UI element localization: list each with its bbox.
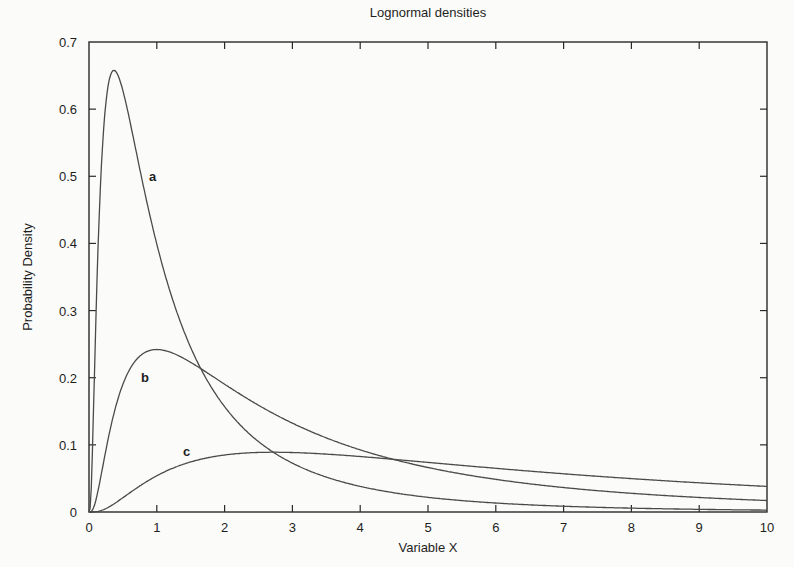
x-tick-label: 5 bbox=[424, 520, 431, 535]
curve-a bbox=[89, 70, 767, 512]
y-tick-label: 0.7 bbox=[59, 35, 77, 50]
y-tick-label: 0 bbox=[70, 505, 77, 520]
y-tick-label: 0.1 bbox=[59, 438, 77, 453]
curve-c-label: c bbox=[183, 444, 190, 459]
x-tick-label: 9 bbox=[696, 520, 703, 535]
curve-b bbox=[89, 350, 767, 513]
x-tick-label: 2 bbox=[221, 520, 228, 535]
y-tick-label: 0.5 bbox=[59, 169, 77, 184]
y-tick-label: 0.3 bbox=[59, 304, 77, 319]
x-axis-label: Variable X bbox=[398, 540, 457, 555]
curve-a-label: a bbox=[149, 169, 157, 184]
x-tick-label: 8 bbox=[628, 520, 635, 535]
plot-frame bbox=[89, 42, 767, 512]
y-tick-label: 0.4 bbox=[59, 236, 77, 251]
y-axis-label: Probability Density bbox=[20, 223, 35, 331]
x-tick-label: 3 bbox=[289, 520, 296, 535]
x-tick-label: 7 bbox=[560, 520, 567, 535]
chart-title: Lognormal densities bbox=[370, 5, 487, 20]
lognormal-chart: Lognormal densities 012345678910 00.10.2… bbox=[0, 0, 794, 567]
curve-b-label: b bbox=[141, 370, 149, 385]
x-tick-label: 0 bbox=[85, 520, 92, 535]
x-tick-label: 6 bbox=[492, 520, 499, 535]
x-tick-label: 10 bbox=[760, 520, 774, 535]
y-tick-label: 0.6 bbox=[59, 102, 77, 117]
x-axis: 012345678910 bbox=[85, 42, 774, 535]
x-tick-label: 1 bbox=[153, 520, 160, 535]
curves bbox=[89, 70, 767, 512]
curve-c bbox=[89, 452, 767, 512]
y-tick-label: 0.2 bbox=[59, 371, 77, 386]
x-tick-label: 4 bbox=[357, 520, 364, 535]
